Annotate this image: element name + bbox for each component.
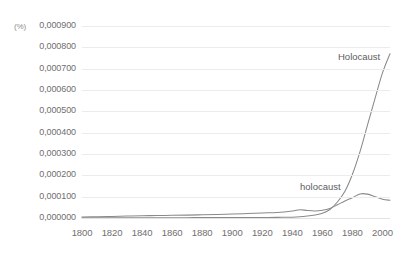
- y-tick-label: 0,000300: [16, 149, 76, 158]
- gridline: [82, 111, 390, 112]
- gridline: [82, 90, 390, 91]
- x-tick-label: 1900: [222, 227, 243, 238]
- axis-baseline: [82, 218, 390, 219]
- gridline: [82, 69, 390, 70]
- y-tick-label: 0,000900: [16, 21, 76, 30]
- x-tick-label: 1820: [102, 227, 123, 238]
- gridline: [82, 47, 390, 48]
- series-line-holocaust-capital: [82, 54, 390, 218]
- gridline: [82, 175, 390, 176]
- gridline: [82, 154, 390, 155]
- gridline: [82, 133, 390, 134]
- x-tick-label: 2000: [372, 227, 393, 238]
- x-tick-label: 1860: [162, 227, 183, 238]
- y-axis-tick-labels: 0,0009000,0008000,0007000,0006000,000500…: [16, 0, 76, 261]
- y-tick-label: 0,000100: [16, 192, 76, 201]
- x-tick-label: 1940: [282, 227, 303, 238]
- ngram-chart: (%) 0,0009000,0008000,0007000,0006000,00…: [0, 0, 415, 261]
- x-tick-label: 1800: [72, 227, 93, 238]
- x-tick-label: 1880: [192, 227, 213, 238]
- x-tick-label: 1980: [342, 227, 363, 238]
- x-tick-label: 1920: [252, 227, 273, 238]
- y-tick-label: 0,000500: [16, 106, 76, 115]
- y-tick-label: 0,000000: [16, 213, 76, 222]
- gridline: [82, 197, 390, 198]
- y-tick-label: 0,000700: [16, 64, 76, 73]
- gridline: [82, 26, 390, 27]
- series-label-holocaust-capital: Holocaust: [338, 51, 380, 62]
- x-tick-label: 1840: [132, 227, 153, 238]
- series-label-holocaust-lower: holocaust: [300, 181, 341, 192]
- y-tick-label: 0,000600: [16, 85, 76, 94]
- y-tick-label: 0,000800: [16, 42, 76, 51]
- y-tick-label: 0,000400: [16, 128, 76, 137]
- y-tick-label: 0,000200: [16, 170, 76, 179]
- x-tick-label: 1960: [312, 227, 333, 238]
